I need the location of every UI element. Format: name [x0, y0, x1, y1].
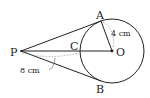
label-pc-8cm: 8 cm: [20, 66, 40, 75]
tangent-pa: [21, 21, 101, 51]
label-radius-4cm: 4 cm: [111, 29, 131, 38]
label-c: C: [70, 40, 78, 53]
tangent-circle-diagram: P A B C O 4 cm 8 cm: [0, 0, 150, 98]
point-p-dot: [20, 50, 22, 52]
pc-label-leader: [49, 58, 55, 70]
label-p: P: [10, 46, 18, 59]
center-point-o: [111, 50, 114, 53]
label-o: O: [116, 46, 125, 59]
label-b: B: [96, 83, 104, 96]
label-a: A: [95, 9, 105, 22]
